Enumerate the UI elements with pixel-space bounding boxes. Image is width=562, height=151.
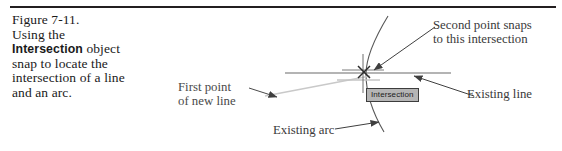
leader-existing-line (414, 76, 474, 96)
intersection-snap-tooltip: Intersection (366, 88, 419, 102)
annotation-second-point: Second point snaps to this intersection (433, 18, 532, 46)
annotation-existing-arc: Existing arc (273, 123, 334, 137)
existing-arc-geometry (366, 16, 388, 132)
leader-first-point (249, 88, 277, 97)
rubber-band-preview-line (265, 76, 370, 96)
annotation-first-point: First point of new line (178, 80, 236, 108)
figure-container: Figure 7-11. Using the Intersection obje… (0, 0, 562, 151)
annotation-existing-line: Existing line (467, 87, 532, 101)
leader-second-point (374, 27, 435, 70)
annotation-first-point-line1: First point (178, 80, 231, 94)
leader-existing-arc (335, 122, 379, 129)
annotation-second-point-line2: to this intersection (433, 32, 532, 46)
annotation-first-point-line2: of new line (178, 94, 236, 108)
annotation-second-point-line1: Second point snaps (433, 18, 532, 32)
intersection-snap-marker (358, 66, 370, 78)
